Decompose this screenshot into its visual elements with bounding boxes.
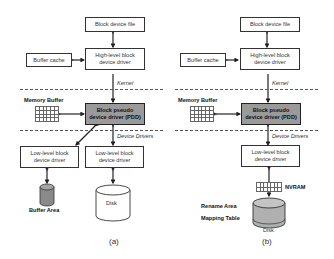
- block-device-file-box-b: Block device file: [240, 17, 300, 32]
- kernel-label-b: Kernel: [272, 80, 288, 86]
- memory-buffer-label-a: Memory Buffer: [24, 97, 63, 103]
- device-drivers-divider-a: [20, 130, 163, 131]
- low-level-driver-2-box-a: Low-level block device driver: [85, 146, 144, 168]
- device-drivers-label-a: Device Drivers: [117, 133, 153, 139]
- rename-area-label-b: Rename Area: [201, 203, 237, 209]
- kernel-divider-b: [175, 89, 318, 90]
- high-level-driver-box-a: High-level block device driver: [85, 48, 145, 70]
- nvram-grid-icon-b: [256, 182, 282, 192]
- pdd-box-b: Block pseudo device driver (PDD): [241, 103, 301, 125]
- pdd-box-a: Block pseudo device driver (PDD): [85, 103, 145, 125]
- caption-b: (b): [262, 237, 272, 246]
- caption-a: (a): [109, 237, 119, 246]
- low-level-driver-1-box-a: Low-level block device driver: [20, 146, 79, 168]
- memory-buffer-label-b: Memory Buffer: [178, 97, 217, 103]
- mapping-table-label-b: Mapping Table: [201, 215, 240, 221]
- memory-buffer-grid-icon-a: [35, 106, 59, 122]
- nvram-label-b: NVRAM: [285, 184, 306, 190]
- high-level-driver-box-b: High-level block device driver: [240, 48, 300, 70]
- kernel-divider-a: [20, 89, 163, 90]
- buffer-area-cylinder-icon: [40, 184, 54, 206]
- kernel-label-a: Kernel: [117, 80, 133, 86]
- device-drivers-label-b: Device Drivers: [272, 133, 308, 139]
- low-level-driver-box-b: Low-level block device driver: [241, 145, 300, 167]
- buffer-cache-box-b: Buffer cache: [180, 53, 226, 67]
- disk-label-b: Disk: [263, 227, 274, 233]
- buffer-area-label-a: Buffer Area: [29, 207, 59, 213]
- memory-buffer-grid-icon-b: [190, 106, 214, 122]
- disk-b-cylinder-icon: [253, 198, 285, 228]
- block-device-file-box-a: Block device file: [85, 17, 145, 32]
- disk-label-a: Disk: [106, 200, 117, 206]
- buffer-cache-box-a: Buffer cache: [26, 53, 72, 67]
- device-drivers-divider-b: [175, 130, 318, 131]
